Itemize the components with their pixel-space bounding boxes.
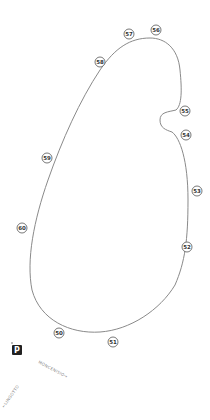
km-marker: 56	[151, 25, 161, 35]
marker-label: 50	[55, 330, 63, 336]
marker-label: 59	[43, 155, 51, 161]
km-marker: 51	[108, 337, 118, 347]
road-label: ←LINGOTTO	[1, 384, 20, 409]
marker-label: 55	[181, 108, 189, 114]
km-marker: 59	[42, 153, 52, 163]
road-label: MONCENISIO→	[38, 359, 69, 379]
marker-label: 54	[182, 132, 190, 138]
track-map: 5657585554535251505960 P MONCENISIO→←LIN…	[0, 0, 210, 420]
km-marker: 57	[124, 29, 134, 39]
km-marker: 50	[54, 328, 64, 338]
marker-label: 56	[152, 27, 160, 33]
parking-icon: P	[11, 342, 22, 355]
marker-label: 57	[125, 31, 133, 37]
km-marker: 60	[17, 223, 27, 233]
marker-label: 60	[18, 225, 26, 231]
km-marker: 53	[192, 186, 202, 196]
svg-text:P: P	[14, 346, 20, 355]
marker-label: 53	[193, 188, 201, 194]
km-marker: 55	[180, 106, 190, 116]
km-marker: 58	[95, 57, 105, 67]
km-marker: 52	[182, 242, 192, 252]
track-path	[30, 38, 188, 332]
marker-label: 52	[183, 244, 191, 250]
marker-label: 58	[96, 59, 104, 65]
km-marker: 54	[181, 130, 191, 140]
marker-label: 51	[109, 339, 117, 345]
